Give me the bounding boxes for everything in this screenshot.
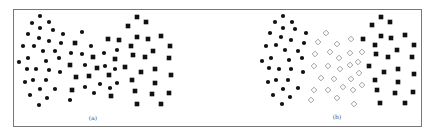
circle-marker bbox=[80, 30, 84, 34]
square-marker bbox=[130, 78, 135, 83]
square-marker bbox=[150, 92, 155, 97]
square-marker bbox=[117, 38, 122, 43]
circle-marker bbox=[51, 28, 55, 32]
square-marker bbox=[135, 15, 140, 20]
square-marker bbox=[373, 78, 378, 83]
circle-marker bbox=[44, 59, 48, 63]
square-marker bbox=[379, 15, 384, 20]
square-marker bbox=[361, 37, 366, 42]
diamond-marker bbox=[350, 87, 356, 93]
circle-marker bbox=[289, 67, 293, 71]
square-marker bbox=[109, 94, 114, 99]
circle-marker bbox=[286, 78, 290, 82]
square-marker bbox=[410, 55, 415, 60]
diamond-marker bbox=[355, 59, 361, 65]
circle-marker bbox=[296, 49, 300, 53]
square-marker bbox=[123, 65, 128, 70]
square-marker bbox=[374, 52, 379, 57]
square-marker bbox=[382, 70, 387, 75]
square-marker bbox=[107, 73, 112, 78]
square-marker bbox=[139, 70, 144, 75]
square-marker bbox=[153, 67, 158, 72]
square-marker bbox=[375, 88, 380, 93]
square-marker bbox=[133, 89, 138, 94]
diamond-marker bbox=[347, 62, 353, 68]
circle-marker bbox=[38, 14, 42, 18]
circle-marker bbox=[58, 70, 62, 74]
circle-marker bbox=[283, 48, 287, 52]
circle-marker bbox=[28, 93, 32, 97]
square-marker bbox=[131, 53, 136, 58]
circle-marker bbox=[108, 86, 112, 90]
square-marker bbox=[167, 56, 172, 61]
square-marker bbox=[144, 20, 149, 25]
circle-marker bbox=[115, 48, 119, 52]
circle-marker bbox=[274, 43, 278, 47]
circle-marker bbox=[302, 41, 306, 45]
square-marker bbox=[87, 74, 92, 79]
square-marker bbox=[159, 34, 164, 39]
circle-marker bbox=[260, 59, 264, 63]
diamond-marker bbox=[347, 50, 353, 56]
circle-marker bbox=[45, 96, 49, 100]
circle-marker bbox=[61, 32, 65, 36]
square-marker bbox=[95, 66, 100, 71]
square-marker bbox=[70, 88, 75, 93]
square-marker bbox=[403, 33, 408, 38]
square-marker bbox=[373, 43, 378, 48]
circle-marker bbox=[21, 44, 25, 48]
diamond-marker bbox=[348, 76, 354, 82]
circle-marker bbox=[38, 87, 42, 91]
diamond-marker bbox=[315, 39, 321, 45]
circle-marker bbox=[26, 32, 30, 36]
square-marker bbox=[367, 64, 372, 69]
panel-b-scatter bbox=[260, 14, 416, 107]
square-marker bbox=[129, 44, 134, 49]
diamond-marker bbox=[356, 70, 362, 76]
square-marker bbox=[378, 101, 383, 106]
diamond-marker bbox=[359, 49, 365, 55]
circle-marker bbox=[57, 56, 61, 60]
circle-marker bbox=[80, 52, 84, 56]
square-marker bbox=[388, 20, 393, 25]
circle-marker bbox=[271, 93, 275, 97]
diamond-marker bbox=[340, 84, 346, 90]
square-marker bbox=[403, 101, 408, 106]
circle-marker bbox=[115, 81, 119, 85]
diamond-marker bbox=[311, 87, 317, 93]
square-marker bbox=[74, 75, 79, 80]
circle-marker bbox=[23, 80, 27, 84]
circle-marker bbox=[268, 31, 272, 35]
square-marker bbox=[169, 73, 174, 78]
circle-marker bbox=[281, 26, 285, 30]
square-marker bbox=[106, 37, 111, 42]
square-marker bbox=[143, 55, 148, 60]
circle-marker bbox=[30, 21, 34, 25]
circle-marker bbox=[98, 82, 102, 86]
panel-b-caption: (b) bbox=[333, 113, 342, 120]
circle-marker bbox=[266, 80, 270, 84]
circle-marker bbox=[53, 49, 57, 53]
circle-marker bbox=[290, 20, 294, 24]
square-marker bbox=[167, 91, 172, 96]
square-marker bbox=[396, 80, 401, 85]
circle-marker bbox=[38, 26, 42, 30]
circle-marker bbox=[289, 38, 293, 42]
circle-marker bbox=[47, 20, 51, 24]
square-marker bbox=[153, 81, 158, 86]
circle-marker bbox=[264, 44, 268, 48]
circle-marker bbox=[41, 49, 45, 53]
panel-a-caption: (a) bbox=[89, 114, 97, 121]
square-marker bbox=[396, 67, 401, 72]
scatter-figure: (a) (b) bbox=[0, 0, 432, 136]
square-marker bbox=[113, 57, 118, 62]
circle-marker bbox=[47, 39, 51, 43]
circle-marker bbox=[83, 85, 87, 89]
circle-marker bbox=[293, 27, 297, 31]
circle-marker bbox=[25, 67, 29, 71]
circle-marker bbox=[26, 56, 30, 60]
diamond-marker bbox=[311, 63, 317, 69]
circle-marker bbox=[69, 51, 73, 55]
diamond-marker bbox=[318, 75, 324, 81]
circle-marker bbox=[300, 56, 304, 60]
